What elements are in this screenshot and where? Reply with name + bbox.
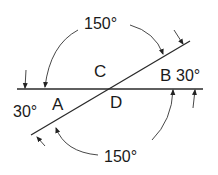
angle-bottom-150: 150° bbox=[104, 148, 137, 165]
top-left-arc-arrow bbox=[45, 30, 78, 87]
angle-top-150: 150° bbox=[84, 15, 117, 32]
angle-diagram: C B A D 150° 30° 30° 150° bbox=[0, 0, 218, 175]
angle-left-30: 30° bbox=[13, 103, 37, 120]
left-30-arrow-bottom bbox=[37, 137, 45, 146]
angle-right-30: 30° bbox=[176, 67, 200, 84]
top-right-arc-arrow bbox=[130, 25, 163, 54]
right-30-arrow-bottom bbox=[193, 90, 195, 108]
right-30-arrow-top bbox=[174, 30, 183, 44]
label-A: A bbox=[52, 95, 64, 114]
label-B: B bbox=[160, 66, 171, 85]
bottom-right-arc-arrow bbox=[152, 90, 173, 140]
bottom-left-arc-arrow bbox=[56, 128, 98, 155]
label-D: D bbox=[110, 93, 122, 112]
label-C: C bbox=[94, 62, 106, 81]
left-30-arrow-top bbox=[25, 70, 26, 88]
